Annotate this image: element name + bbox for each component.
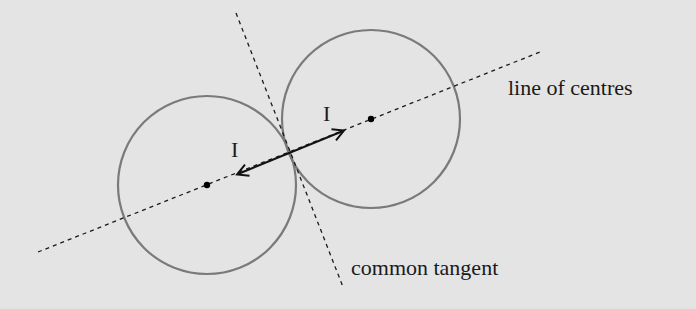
common-tangent-label: common tangent <box>351 255 498 280</box>
common-tangent-line <box>236 13 343 287</box>
impulse-label-right: I <box>323 101 330 126</box>
left-centre-dot <box>204 182 210 188</box>
diagram-canvas: I I line of centres common tangent <box>0 0 696 309</box>
right-centre-dot <box>368 116 374 122</box>
impulse-arrow <box>238 131 343 174</box>
line-of-centres-label: line of centres <box>508 75 633 100</box>
impulse-label-left: I <box>231 137 238 162</box>
